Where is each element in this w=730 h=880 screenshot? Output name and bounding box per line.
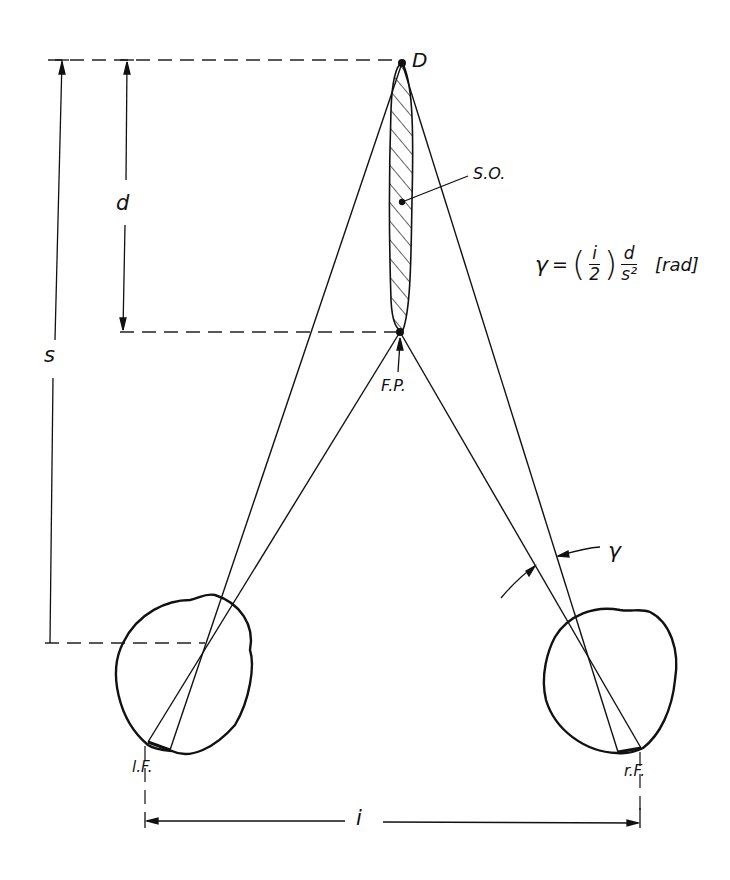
fp-pointer-arrow (397, 338, 403, 372)
far-point-label: D (412, 50, 427, 70)
i-dimension (145, 808, 640, 828)
gamma-angle-label: γ (608, 540, 621, 562)
stereo-object-label: S.O. (473, 166, 505, 182)
reference-lines (45, 60, 640, 812)
right-fovea-label: r.F. (624, 764, 645, 779)
formula-fraction-d-over-s2: d s² (621, 245, 637, 284)
frac1-numerator: i (592, 245, 597, 263)
stereo-object (390, 62, 413, 330)
formula-unit: [rad] (655, 254, 699, 275)
frac2-numerator: d (624, 245, 635, 263)
left-fovea-label: l.F. (132, 760, 152, 775)
diagram-canvas (0, 0, 730, 880)
formula-fraction-i-over-2: i 2 (589, 245, 600, 284)
formula-paren-close: ) (604, 247, 617, 281)
fixation-point-label: F.P. (381, 378, 406, 394)
disparity-formula: γ = ( i 2 ) d s² [rad] (535, 245, 699, 284)
formula-paren-open: ( (572, 247, 585, 281)
formula-equals: = (552, 253, 568, 275)
interocular-i-label: i (356, 808, 362, 829)
frac2-denominator: s² (621, 266, 637, 284)
right-eye (544, 609, 676, 754)
formula-lhs: γ (535, 252, 548, 277)
depth-d-label: d (116, 193, 129, 214)
frac1-denominator: 2 (589, 266, 600, 284)
gamma-angle-marks (501, 547, 600, 598)
left-eye (116, 595, 252, 754)
distance-s-label: s (44, 345, 55, 366)
